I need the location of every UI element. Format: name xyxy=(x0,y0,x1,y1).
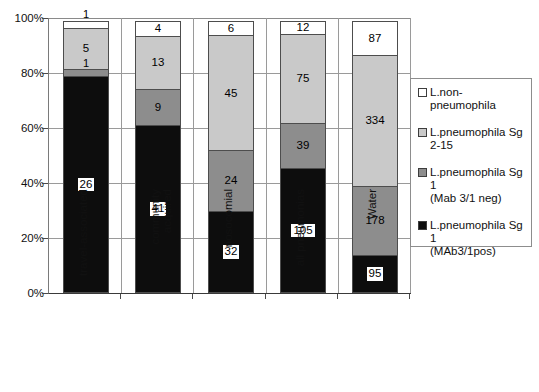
legend-item-label: L.non-pneumophila xyxy=(430,86,526,112)
x-axis-label-community-acquired: community acquired xyxy=(150,189,173,299)
bar-segment-sg1-mab-neg[interactable]: 9 xyxy=(135,89,181,126)
bar-value-label: 39 xyxy=(297,140,310,152)
x-axis-tickmark-2 xyxy=(192,294,193,299)
bar-value-label: 13 xyxy=(152,57,165,69)
x-axis-label-all-pneumonias: all pneumonias xyxy=(295,189,307,299)
bar-segment-non-pneumophila[interactable]: 6 xyxy=(208,21,254,36)
chart-legend: L.non-pneumophila L.pneumophila Sg 2-15 … xyxy=(410,78,532,247)
bar-value-label: 334 xyxy=(365,115,384,127)
x-axis-label-travel-associated: travel-associated xyxy=(78,189,90,299)
legend-item-sg1-mab-pos[interactable]: L.pneumophila Sg 1 (MAb3/1pos) xyxy=(418,219,526,258)
legend-item-sg2-15[interactable]: L.pneumophila Sg 2-15 xyxy=(418,126,526,152)
y-axis-tick-20: 20% xyxy=(4,233,44,245)
legend-swatch-icon xyxy=(418,128,427,137)
bar-segment-non-pneumophila[interactable]: 4 xyxy=(135,21,181,37)
bar-value-label: 45 xyxy=(225,88,238,100)
x-axis-tickmark-4 xyxy=(337,294,338,299)
bar-segment-sg2-15[interactable]: 45 xyxy=(208,35,254,151)
bar-value-label: 1 xyxy=(83,9,89,20)
category-separator-1 xyxy=(121,18,122,293)
legend-swatch-icon xyxy=(418,221,427,230)
category-separator-3 xyxy=(266,18,267,293)
bar-value-label: 6 xyxy=(228,23,234,35)
legend-swatch-icon xyxy=(418,168,427,177)
category-separator-2 xyxy=(193,18,194,293)
bar-value-label: 4 xyxy=(155,23,161,35)
x-axis-label-water: Water xyxy=(367,189,379,299)
y-axis-tick-40: 40% xyxy=(4,178,44,190)
bar-value-label: 75 xyxy=(297,73,310,85)
category-separator-4 xyxy=(338,18,339,293)
bar-value-label: 9 xyxy=(155,102,161,114)
x-axis-tickmark-1 xyxy=(120,294,121,299)
gridline-100 xyxy=(49,18,411,19)
legend-item-label: L.pneumophila Sg 2-15 xyxy=(430,126,523,152)
legend-item-label: L.pneumophila Sg 1 (MAb3/1pos) xyxy=(430,219,526,258)
y-axis-tick-80: 80% xyxy=(4,68,44,80)
stacked-bar-chart: 100% 80% 60% 40% 20% 0% 1 5 1 xyxy=(0,0,539,392)
bar-segment-non-pneumophila[interactable]: 12 xyxy=(280,21,326,35)
bar-segment-sg1-mab-neg[interactable]: 39 xyxy=(280,123,326,169)
bar-segment-sg2-15[interactable]: 334 xyxy=(352,55,398,187)
x-axis-tickmark-5 xyxy=(409,294,410,299)
legend-item-label: L.pneumophila Sg 1 (Mab 3/1 neg) xyxy=(430,166,526,205)
bar-value-label: 24 xyxy=(225,175,238,187)
legend-item-non-pneumophila[interactable]: L.non-pneumophila xyxy=(418,86,526,112)
x-axis-tickmark-3 xyxy=(265,294,266,299)
y-axis-tick-0: 0% xyxy=(4,288,44,300)
bar-value-label: 1 xyxy=(83,58,89,69)
legend-swatch-icon xyxy=(418,88,427,97)
bar-value-label: 12 xyxy=(297,22,310,34)
y-axis-tick-60: 60% xyxy=(4,123,44,135)
y-axis-tick-100: 100% xyxy=(4,13,44,25)
bar-segment-sg2-15[interactable]: 75 xyxy=(280,34,326,123)
bar-segment-sg2-15[interactable]: 13 xyxy=(135,36,181,89)
bar-segment-non-pneumophila[interactable]: 87 xyxy=(352,21,398,56)
bar-value-label: 87 xyxy=(369,33,382,45)
x-axis-label-nosocomial: nosocomial xyxy=(223,189,235,299)
bar-value-label: 5 xyxy=(83,43,89,55)
legend-item-sg1-mab-neg[interactable]: L.pneumophila Sg 1 (Mab 3/1 neg) xyxy=(418,166,526,205)
